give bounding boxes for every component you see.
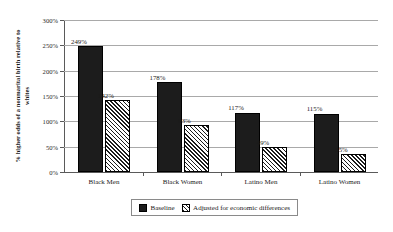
bar-baseline-latino-women [314, 114, 339, 172]
y-tick-label-50: 50% [20, 144, 58, 151]
x-category-label-black-women: Black Women [138, 178, 228, 187]
x-category-label-latino-men: Latino Men [216, 178, 306, 187]
plot-area: 300% 250% 200% 150% 100% 50% 0% 249% 142… [64, 20, 378, 172]
y-tick-mark-50 [60, 147, 64, 148]
bar-value-adjusted-black-men: 142% [84, 92, 128, 100]
gridline-250 [64, 45, 378, 46]
y-tick-label-0: 0% [20, 169, 58, 176]
bar-value-baseline-latino-men: 117% [214, 104, 258, 112]
bar-value-baseline-black-men: 249% [57, 38, 101, 46]
bar-value-baseline-black-women: 178% [136, 74, 180, 82]
x-tick-mark-2 [221, 172, 222, 176]
bar-value-adjusted-latino-women: 35% [320, 146, 364, 154]
legend-item-adjusted: Adjusted for economic differences [182, 204, 290, 212]
bar-value-adjusted-black-women: 93% [163, 117, 207, 125]
y-tick-label-150: 150% [20, 93, 58, 100]
x-tick-mark-1 [143, 172, 144, 176]
legend-swatch-adjusted-icon [182, 204, 190, 212]
legend-item-baseline: Baseline [139, 204, 175, 212]
bar-value-adjusted-latino-men: 49% [241, 139, 285, 147]
y-tick-mark-0 [60, 172, 64, 173]
y-tick-label-300: 300% [20, 17, 58, 24]
bar-baseline-black-women [157, 82, 182, 172]
x-category-label-latino-women: Latino Women [295, 178, 385, 187]
legend-label-baseline: Baseline [151, 204, 175, 212]
gridline-200 [64, 71, 378, 72]
bar-value-baseline-latino-women: 115% [293, 105, 337, 113]
y-tick-mark-300 [60, 20, 64, 21]
y-tick-mark-150 [60, 96, 64, 97]
y-tick-mark-100 [60, 121, 64, 122]
bar-adjusted-black-men [105, 100, 130, 172]
bar-baseline-black-men [78, 46, 103, 172]
x-tick-mark-3 [300, 172, 301, 176]
bar-chart: % higher odds of a nonmarital birth rela… [0, 0, 393, 232]
y-tick-label-250: 250% [20, 42, 58, 49]
bar-adjusted-black-women [184, 125, 209, 172]
y-tick-label-200: 200% [20, 68, 58, 75]
bar-adjusted-latino-men [262, 147, 287, 172]
legend-label-adjusted: Adjusted for economic differences [193, 204, 290, 212]
y-axis-title: % higher odds of a nonmarital birth rela… [6, 0, 20, 20]
legend-swatch-baseline-icon [139, 204, 147, 212]
y-tick-label-100: 100% [20, 118, 58, 125]
bar-adjusted-latino-women [341, 154, 366, 172]
gridline-300 [64, 20, 378, 21]
y-tick-mark-200 [60, 71, 64, 72]
x-category-label-black-men: Black Men [59, 178, 149, 187]
chart-legend: Baseline Adjusted for economic differenc… [131, 199, 298, 216]
